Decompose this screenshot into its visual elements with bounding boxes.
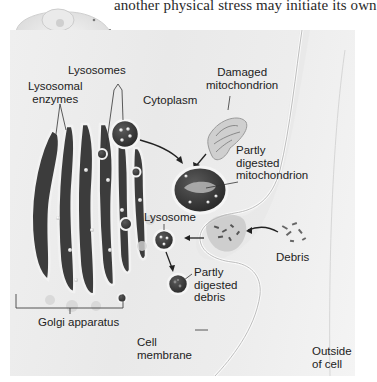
label-cell-membrane: Cell membrane [137,336,192,361]
diagram-panel: Lysosomes Lysosomal enzymes Cytoplasm Da… [10,30,355,376]
label-lysosomal-enzymes-line1: Lysosomal [28,80,83,93]
label-outside-of-cell: Outside of cell [312,345,352,370]
label-cytoplasm: Cytoplasm [143,94,197,107]
label-pdd-line3: debris [194,291,237,304]
lysosome-small [154,230,174,250]
label-debris: Debris [276,251,309,264]
label-damaged-mitochondrion: Damaged mitochondrion [206,66,278,91]
label-damaged-mito-line1: Damaged [206,66,278,79]
label-outside-line1: Outside [312,345,352,358]
label-damaged-mito-line2: mitochondrion [206,79,278,92]
label-partly-digested-mitochondrion: Partly digested mitochondrion [236,144,308,182]
label-golgi-apparatus: Golgi apparatus [38,316,119,329]
autophagosome [173,167,227,213]
label-cell-membrane-line1: Cell [137,336,192,349]
label-lysosome: Lysosome [144,211,196,224]
label-lysosomal-enzymes-line2: enzymes [28,93,83,106]
label-pdd-line2: digested [194,279,237,292]
label-cell-membrane-line2: membrane [137,349,192,362]
label-pdm-line2: digested [236,157,308,170]
label-lysosomal-enzymes: Lysosomal enzymes [28,80,83,105]
lysosome-large [111,120,139,148]
label-pdm-line1: Partly [236,144,308,157]
label-pdm-line3: mitochondrion [236,169,308,182]
partly-digested-debris [168,274,188,294]
label-partly-digested-debris: Partly digested debris [194,266,237,304]
caption-text: another physical stress may initiate its… [114,0,377,14]
label-pdd-line1: Partly [194,266,237,279]
label-lysosomes: Lysosomes [68,64,126,77]
golgi-apparatus [32,124,146,294]
label-outside-line2: of cell [312,358,352,371]
